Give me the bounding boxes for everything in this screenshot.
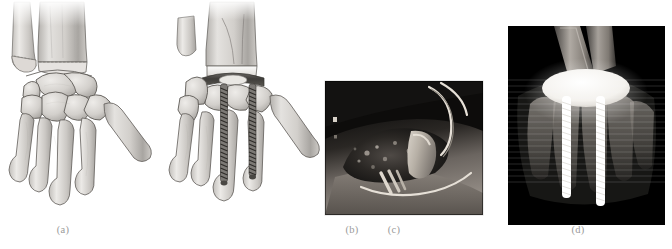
panel-label-b: (b) — [332, 224, 372, 235]
implant-dome-b — [219, 75, 247, 85]
wrist-illustration-native — [0, 0, 168, 222]
panel-b: (b) — [166, 0, 338, 222]
figure-container: (a) — [0, 0, 672, 249]
intraoperative-photo-graphic — [325, 81, 483, 215]
implant-plate-d — [542, 69, 630, 107]
wrist-illustration-implant — [166, 0, 338, 222]
panel-a: (a) — [0, 0, 168, 222]
drape-clip-c — [333, 117, 337, 122]
resected-ulna-fragment-b — [177, 16, 196, 56]
panel-label-c: (c) — [374, 224, 414, 235]
distal-carpal-row-a — [21, 92, 110, 121]
panel-label-d: (d) — [558, 224, 598, 235]
radiograph-graphic — [508, 26, 665, 225]
panel-c-photo — [325, 81, 483, 215]
panel-label-a: (a) — [43, 224, 83, 235]
panel-d-xray — [508, 26, 665, 225]
